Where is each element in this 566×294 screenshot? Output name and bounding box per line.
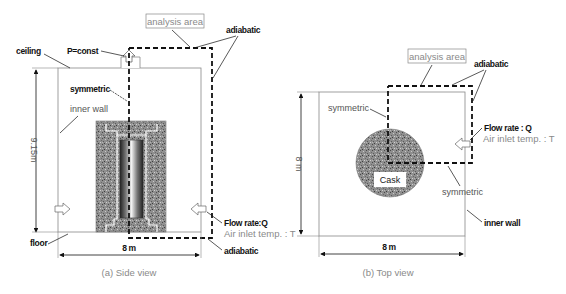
side-air-inlet-label: Air inlet temp. : T [224,228,296,239]
top-height-label: 8 m [294,156,304,171]
side-inner-wall-label: inner wall [70,104,108,114]
ceiling-label: ceiling [16,46,41,56]
side-flow-rate-label: Flow rate:Q [224,218,268,228]
side-width-label: 8 m [122,243,136,253]
side-view-caption: (a) Side view [102,267,157,278]
top-symmetric-label: symmetric [328,103,369,113]
side-analysis-area-label: analysis area [147,16,204,27]
top-width-label: 8 m [382,242,396,252]
inlet-arrow-right-icon [191,203,206,215]
top-air-inlet-label: Air inlet temp. : T [483,133,555,144]
top-view: Cask 8 m 8 m analysis area adiabatic sym… [294,49,555,278]
side-adiabatic-bottom-label: adiabatic [224,246,259,256]
p-const-label: P=const [67,46,99,56]
cask-side [96,121,166,232]
inlet-arrow-left-icon [55,203,70,215]
diagram-canvas: 9.15m 8 m analysis area adiabatic ceilin… [0,0,566,294]
side-height-label: 9.15m [29,137,39,162]
floor-label: floor [30,238,48,248]
top-adiabatic-label: adiabatic [474,59,509,69]
side-adiabatic-top-label: adiabatic [226,25,261,35]
side-view: 9.15m 8 m analysis area adiabatic ceilin… [16,14,296,278]
top-view-caption: (b) Top view [362,267,413,278]
cask-label: Cask [380,175,401,185]
top-inlet-arrow-icon [455,138,470,150]
canister [120,140,143,218]
top-analysis-area-label: analysis area [409,51,466,62]
top-flow-rate-label: Flow rate : Q [484,123,532,133]
top-inner-wall-label: inner wall [484,218,520,228]
side-symmetric-label: symmetric [70,84,110,94]
top-symmetric-bottom-label: symmetric [442,187,483,197]
